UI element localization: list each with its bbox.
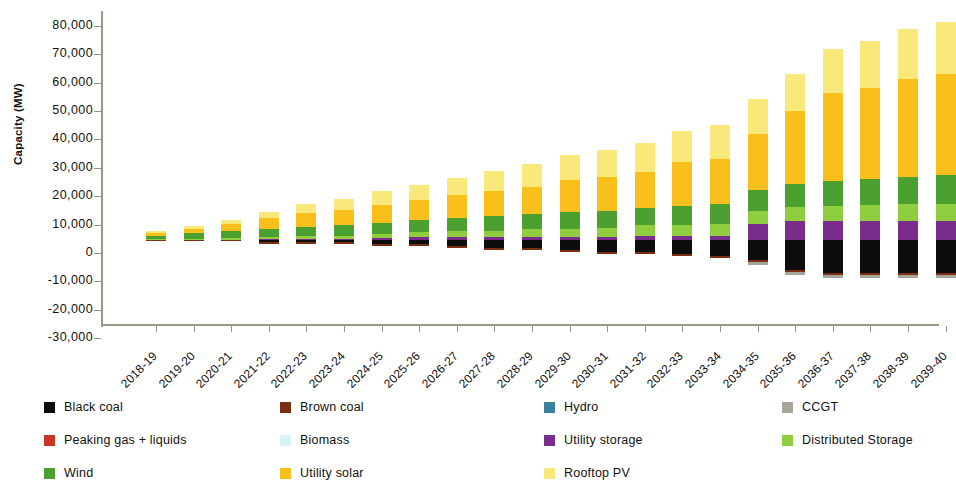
bar-segment[interactable] <box>296 239 316 240</box>
bar-segment[interactable] <box>184 240 204 241</box>
bar-segment[interactable] <box>221 238 241 239</box>
bar-segment[interactable] <box>785 111 805 183</box>
bar-segment[interactable] <box>184 239 204 240</box>
bar-segment[interactable] <box>710 159 730 204</box>
bar-group[interactable] <box>710 0 730 486</box>
bar-segment[interactable] <box>259 242 279 244</box>
bar-segment[interactable] <box>372 205 392 223</box>
bar-segment[interactable] <box>936 275 956 278</box>
bar-segment[interactable] <box>860 240 880 273</box>
bar-segment[interactable] <box>860 275 880 278</box>
legend-item[interactable]: Black coal <box>44 400 123 414</box>
bar-segment[interactable] <box>259 237 279 239</box>
bar-segment[interactable] <box>785 74 805 111</box>
bar-segment[interactable] <box>484 231 504 238</box>
bar-group[interactable] <box>522 0 542 486</box>
bar-segment[interactable] <box>898 177 918 205</box>
bar-segment[interactable] <box>184 229 204 233</box>
bar-segment[interactable] <box>334 210 354 226</box>
bar-segment[interactable] <box>296 213 316 227</box>
bar-segment[interactable] <box>785 221 805 240</box>
bar-segment[interactable] <box>936 240 956 273</box>
bar-segment[interactable] <box>710 204 730 224</box>
bar-segment[interactable] <box>860 41 880 88</box>
bar-segment[interactable] <box>860 88 880 179</box>
bar-segment[interactable] <box>823 181 843 206</box>
bar-segment[interactable] <box>672 206 692 225</box>
bar-segment[interactable] <box>560 155 580 180</box>
bar-segment[interactable] <box>898 240 918 273</box>
bar-group[interactable] <box>296 0 316 486</box>
bar-segment[interactable] <box>484 171 504 191</box>
bar-segment[interactable] <box>785 272 805 275</box>
bar-segment[interactable] <box>823 206 843 221</box>
bar-segment[interactable] <box>936 204 956 221</box>
bar-segment[interactable] <box>635 236 655 240</box>
bar-segment[interactable] <box>447 246 467 248</box>
bar-segment[interactable] <box>296 227 316 237</box>
bar-segment[interactable] <box>672 236 692 240</box>
bar-segment[interactable] <box>823 93 843 181</box>
bar-segment[interactable] <box>635 143 655 172</box>
bar-segment[interactable] <box>447 218 467 231</box>
bar-segment[interactable] <box>860 205 880 221</box>
bar-segment[interactable] <box>522 240 542 248</box>
bar-segment[interactable] <box>146 236 166 239</box>
bar-group[interactable] <box>936 0 956 486</box>
bar-segment[interactable] <box>672 225 692 236</box>
bar-segment[interactable] <box>409 220 429 232</box>
bar-segment[interactable] <box>710 256 730 259</box>
bar-segment[interactable] <box>823 240 843 273</box>
bar-segment[interactable] <box>823 275 843 278</box>
bar-segment[interactable] <box>522 229 542 237</box>
bar-segment[interactable] <box>146 239 166 240</box>
bar-segment[interactable] <box>898 204 918 220</box>
bar-segment[interactable] <box>296 236 316 239</box>
bar-segment[interactable] <box>522 164 542 186</box>
bar-segment[interactable] <box>898 29 918 79</box>
bar-group[interactable] <box>372 0 392 486</box>
bar-group[interactable] <box>221 0 241 486</box>
bar-segment[interactable] <box>484 191 504 216</box>
bar-group[interactable] <box>635 0 655 486</box>
bar-group[interactable] <box>823 0 843 486</box>
bar-group[interactable] <box>597 0 617 486</box>
bar-segment[interactable] <box>710 224 730 236</box>
bar-segment[interactable] <box>635 225 655 235</box>
bar-group[interactable] <box>560 0 580 486</box>
bar-segment[interactable] <box>635 172 655 207</box>
bar-segment[interactable] <box>860 221 880 240</box>
bar-segment[interactable] <box>898 221 918 240</box>
bar-segment[interactable] <box>560 212 580 228</box>
bar-segment[interactable] <box>184 233 204 239</box>
bar-segment[interactable] <box>597 211 617 228</box>
bar-segment[interactable] <box>372 234 392 238</box>
bar-group[interactable] <box>409 0 429 486</box>
bar-group[interactable] <box>259 0 279 486</box>
bar-segment[interactable] <box>560 250 580 252</box>
bar-segment[interactable] <box>597 252 617 255</box>
bar-segment[interactable] <box>259 229 279 238</box>
bar-segment[interactable] <box>372 244 392 246</box>
bar-segment[interactable] <box>484 240 504 248</box>
bar-segment[interactable] <box>146 240 166 241</box>
bar-segment[interactable] <box>823 221 843 240</box>
bar-segment[interactable] <box>823 49 843 93</box>
bar-segment[interactable] <box>259 239 279 240</box>
bar-segment[interactable] <box>936 22 956 74</box>
bar-segment[interactable] <box>710 236 730 240</box>
bar-group[interactable] <box>785 0 805 486</box>
bar-segment[interactable] <box>898 79 918 177</box>
bar-segment[interactable] <box>672 131 692 162</box>
bar-segment[interactable] <box>635 208 655 226</box>
bar-segment[interactable] <box>409 232 429 237</box>
bar-segment[interactable] <box>560 240 580 250</box>
bar-segment[interactable] <box>259 212 279 218</box>
bar-segment[interactable] <box>785 207 805 221</box>
bar-segment[interactable] <box>146 231 166 233</box>
bar-segment[interactable] <box>635 240 655 252</box>
bar-group[interactable] <box>184 0 204 486</box>
bar-segment[interactable] <box>296 204 316 213</box>
bar-segment[interactable] <box>785 240 805 270</box>
bar-group[interactable] <box>860 0 880 486</box>
